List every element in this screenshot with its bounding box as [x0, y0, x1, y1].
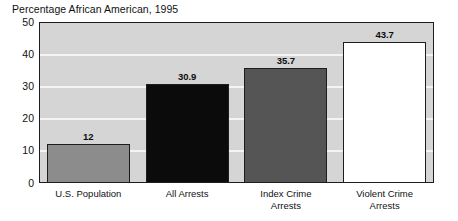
bar	[244, 68, 327, 183]
x-axis-label-line: U.S. Population	[39, 188, 138, 200]
x-axis-category-label: U.S. Population	[39, 188, 138, 200]
chart-title: Percentage African American, 1995	[12, 3, 178, 16]
y-tick-label: 10	[4, 145, 34, 156]
y-axis: 50403020100	[0, 22, 34, 183]
x-axis-label-line: All Arrests	[138, 188, 237, 200]
bar-value-label: 12	[47, 131, 130, 142]
x-axis-label-line: Violent Crime	[335, 188, 434, 200]
x-axis-label-line: Arrests	[335, 200, 434, 212]
bar	[146, 84, 229, 183]
y-tick-label: 0	[4, 178, 34, 189]
y-tick-label: 50	[4, 17, 34, 28]
bar-value-label: 30.9	[146, 71, 229, 82]
y-tick-label: 40	[4, 49, 34, 60]
bar-value-label: 43.7	[343, 29, 426, 40]
x-axis-label-line: Arrests	[237, 200, 336, 212]
bar-chart: Percentage African American, 1995 504030…	[0, 0, 458, 221]
bars-container: 1230.935.743.7	[39, 22, 434, 183]
bar-value-label: 35.7	[244, 55, 327, 66]
x-axis-category-label: Index CrimeArrests	[237, 188, 336, 212]
x-axis-category-label: Violent CrimeArrests	[335, 188, 434, 212]
y-tick-label: 20	[4, 113, 34, 124]
bar	[47, 144, 130, 183]
y-tick-label: 30	[4, 81, 34, 92]
x-axis-category-label: All Arrests	[138, 188, 237, 200]
bar	[343, 42, 426, 183]
x-axis-label-line: Index Crime	[237, 188, 336, 200]
x-axis-labels: U.S. PopulationAll ArrestsIndex CrimeArr…	[39, 188, 434, 221]
